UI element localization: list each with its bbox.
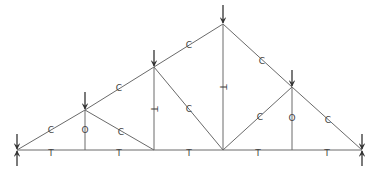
diagonal-1-force-label: C xyxy=(118,127,124,137)
member-force-labels: CCCCCTTTTTOTTOCCC xyxy=(47,40,331,158)
vertical-3-force-label: T xyxy=(218,83,228,90)
diagonal-2-force-label: C xyxy=(186,104,192,114)
bottom-chord-3-force-label: T xyxy=(185,148,192,158)
top-chord-3-force-label: C xyxy=(186,40,192,50)
diagonal-3-force-label: C xyxy=(257,112,263,122)
top-chord-5-force-label: C xyxy=(325,115,331,125)
vertical-1-force-label: O xyxy=(81,125,88,135)
bottom-chord-5-force-label: T xyxy=(323,148,330,158)
vertical-4-force-label: O xyxy=(288,113,295,123)
top-chord-4 xyxy=(223,24,292,87)
truss-diagram: CCCCCTTTTTOTTOCCC xyxy=(0,0,376,184)
vertical-2-force-label: T xyxy=(149,105,159,112)
top-chord-1-force-label: C xyxy=(48,125,54,135)
top-chord-4-force-label: C xyxy=(259,56,265,66)
bottom-chord-2-force-label: T xyxy=(115,148,122,158)
bottom-chord-1-force-label: T xyxy=(47,148,54,158)
top-chord-2-force-label: C xyxy=(116,83,122,93)
bottom-chord-4-force-label: T xyxy=(254,148,261,158)
